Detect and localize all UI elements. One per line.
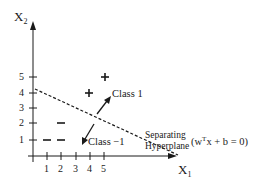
y-axis-label: X2 — [14, 10, 27, 26]
x-tick-label: 1 — [44, 164, 49, 174]
arrow-to-class-1 — [97, 101, 107, 114]
positive-points — [85, 73, 109, 97]
x-tick-label: 2 — [58, 164, 63, 174]
class-neg1-label: Class −1 — [88, 137, 125, 148]
x-tick-label: 4 — [87, 164, 92, 174]
hyperplane-label: Separating Hyperplane — [145, 130, 189, 152]
hyperplane-label-line2: Hyperplane — [145, 141, 189, 152]
y-tick-label: 4 — [19, 88, 24, 98]
hyperplane-equation: (wTx + b = 0) — [191, 136, 248, 148]
x-tick-label: 3 — [73, 164, 78, 174]
x-axis-arrowhead-icon — [168, 153, 177, 159]
plus-icon — [101, 73, 109, 81]
hyperplane-label-line1: Separating — [145, 130, 189, 141]
y-tick-label: 1 — [19, 135, 24, 145]
y-tick-label: 5 — [19, 72, 24, 82]
x-axis-label: X1 — [178, 163, 191, 179]
plus-icon — [85, 89, 93, 97]
x-tick-label: 5 — [101, 164, 106, 174]
y-tick-label: 2 — [19, 118, 24, 128]
y-axis-arrowhead-icon — [30, 21, 36, 30]
class-1-label: Class 1 — [112, 89, 143, 100]
y-tick-label: 3 — [19, 103, 24, 113]
negative-points — [43, 123, 65, 140]
